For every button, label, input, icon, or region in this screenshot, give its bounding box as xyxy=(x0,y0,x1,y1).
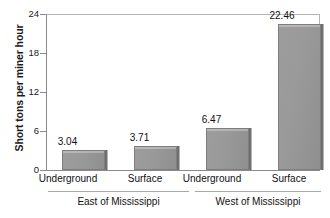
x-tick-label-east-surface: Surface xyxy=(110,172,180,186)
bar-highlight xyxy=(207,129,248,131)
x-tick-label-west-surface: Surface xyxy=(254,172,324,186)
group-label-east: East of Mississippi xyxy=(48,194,189,210)
bar-value-label-west-surface: 22.46 xyxy=(254,10,310,22)
bar-value-label-east-surface: 3.71 xyxy=(113,132,166,144)
bar-east-surface xyxy=(134,146,177,170)
bar-value-label-east-underground: 3.04 xyxy=(41,136,94,148)
group-rule-east xyxy=(48,191,189,192)
bar-chart-figure: Short tons per miner hour 0 6 12 18 24 3… xyxy=(0,0,330,218)
bar-east-underground xyxy=(62,150,105,170)
bar-west-underground xyxy=(206,128,249,170)
bar-highlight xyxy=(63,151,104,153)
x-tick-label-east-underground: Underground xyxy=(32,172,104,186)
group-rule-west xyxy=(195,191,321,192)
bar-west-surface xyxy=(278,24,321,170)
bar-highlight xyxy=(135,147,176,149)
group-label-west: West of Mississippi xyxy=(195,194,321,210)
bar-highlight xyxy=(279,25,320,27)
x-tick-label-west-underground: Underground xyxy=(176,172,248,186)
bar-value-label-west-underground: 6.47 xyxy=(185,114,238,126)
